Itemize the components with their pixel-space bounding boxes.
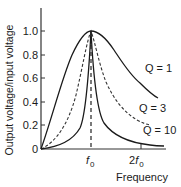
y-axis-title: Output voltage/input voltage — [3, 24, 15, 155]
y-tick-label: 0.2 — [23, 119, 38, 131]
x-tick-label-f0: f0 — [86, 154, 95, 169]
q3-label: Q = 3 — [139, 102, 166, 114]
x-tick-label-2f0: 2f0 — [129, 154, 144, 169]
y-tick-label: 0.4 — [23, 96, 38, 108]
x-axis-title: Frequency — [116, 171, 168, 183]
y-tick-label: 0 — [32, 143, 38, 155]
q1-label: Q = 1 — [145, 62, 172, 74]
y-tick-label: 1.0 — [23, 25, 38, 37]
y-tick-labels: 1.0 0.8 0.6 0.4 0.2 0 — [23, 25, 38, 155]
y-tick-label: 0.6 — [23, 72, 38, 84]
curve-q1 — [41, 31, 158, 149]
resonance-chart: 1.0 0.8 0.6 0.4 0.2 0 Output voltage/inp… — [0, 0, 181, 187]
q10-label: Q = 10 — [143, 124, 176, 136]
y-tick-label: 0.8 — [23, 49, 38, 61]
